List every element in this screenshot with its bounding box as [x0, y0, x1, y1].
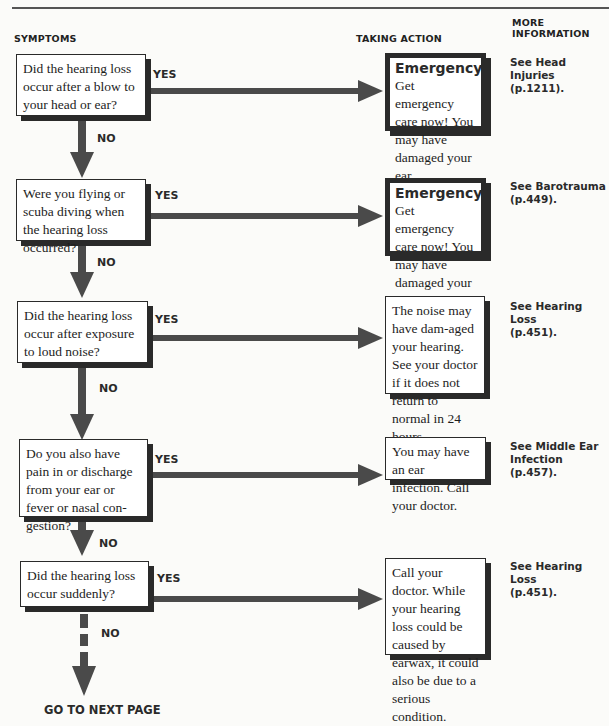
question-box-5: Did the hearing loss occur suddenly? [20, 561, 149, 607]
yes-arrow-2-head [358, 205, 383, 227]
no-arrow-5-dash-1 [80, 614, 88, 628]
more-info-5-line1: See Hearing Loss [510, 560, 609, 586]
action-text-2: Get emergency care now! You may have dam… [395, 203, 473, 308]
action-box-4: You may have an ear infection. Call your… [385, 437, 486, 480]
yes-label-4: YES [155, 453, 178, 466]
question-box-1: Did the hearing loss occur after a blow … [16, 54, 146, 116]
more-info-1-line2: (p.1211). [510, 82, 609, 95]
yes-arrow-4-head [358, 464, 383, 486]
go-to-next-page: GO TO NEXT PAGE [44, 703, 161, 717]
more-info-5: See Hearing Loss (p.451). [510, 560, 609, 599]
more-info-1: See Head Injuries (p.1211). [510, 56, 609, 95]
yes-arrow-3-head [358, 327, 383, 349]
no-arrow-5-head [72, 666, 96, 696]
question-box-4: Do you also have pain in or discharge fr… [19, 439, 148, 517]
emergency-title-2: Emergency! [395, 185, 476, 202]
yes-arrow-1-head [358, 80, 383, 102]
action-box-5: Call your doctor. While your hearing los… [385, 558, 486, 655]
question-box-2: Were you flying or scuba diving when the… [16, 179, 146, 241]
no-arrow-3-head [70, 414, 94, 440]
no-label-4: NO [99, 537, 118, 550]
more-info-4-line2: Infection (p.457). [510, 453, 609, 479]
yes-arrow-2-shaft [148, 213, 362, 219]
more-info-3: See Hearing Loss (p.451). [510, 300, 609, 339]
no-arrow-3-shaft [78, 363, 86, 418]
more-info-2-line1: See Barotrauma [510, 180, 609, 193]
more-info-2: See Barotrauma (p.449). [510, 180, 609, 206]
question-box-3: Did the hearing loss occur after exposur… [17, 301, 148, 363]
more-info-4-line1: See Middle Ear [510, 440, 609, 453]
no-arrow-4-head [70, 530, 94, 556]
no-arrow-2-head [70, 272, 94, 298]
action-text-1: Get emergency care now! You may have dam… [395, 78, 473, 183]
yes-label-5: YES [157, 572, 180, 585]
more-info-1-line1: See Head Injuries [510, 56, 609, 82]
more-info-3-line1: See Hearing Loss [510, 300, 609, 326]
yes-arrow-5-shaft [152, 596, 362, 602]
yes-arrow-3-shaft [150, 335, 362, 341]
action-box-2: Emergency! Get emergency care now! You m… [385, 178, 486, 256]
no-arrow-1-head [70, 152, 94, 178]
more-info-5-line2: (p.451). [510, 586, 609, 599]
no-label-2: NO [97, 256, 116, 269]
no-label-1: NO [97, 132, 116, 145]
no-label-3: NO [99, 382, 118, 395]
action-box-1: Emergency! Get emergency care now! You m… [385, 53, 486, 131]
action-box-3: The noise may have dam-aged your hearing… [385, 296, 485, 394]
no-label-5: NO [101, 627, 120, 640]
more-info-3-line2: (p.451). [510, 326, 609, 339]
emergency-title-1: Emergency! [395, 60, 476, 77]
yes-label-1: YES [153, 68, 176, 81]
more-info-4: See Middle Ear Infection (p.457). [510, 440, 609, 479]
more-info-2-line2: (p.449). [510, 193, 609, 206]
yes-arrow-4-shaft [150, 472, 362, 478]
no-arrow-5-dash-2 [80, 634, 88, 646]
yes-label-2: YES [155, 189, 178, 202]
yes-arrow-1-shaft [145, 88, 363, 94]
yes-arrow-5-head [358, 588, 383, 610]
yes-label-3: YES [155, 313, 178, 326]
